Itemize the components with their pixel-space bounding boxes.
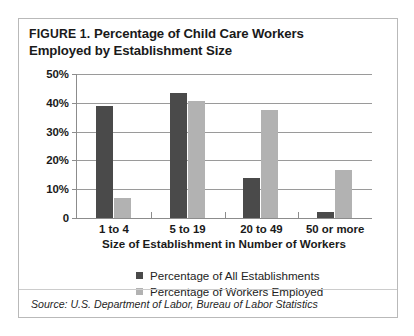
bar-workers-employed bbox=[188, 101, 205, 218]
y-axis-label: 0 bbox=[63, 212, 69, 224]
x-axis-category-label: 1 to 4 bbox=[99, 223, 129, 235]
bar-all-establishments bbox=[243, 178, 260, 218]
chart-legend: Percentage of All Establishments Percent… bbox=[136, 268, 323, 300]
source-note: Source: U.S. Department of Labor, Bureau… bbox=[31, 298, 318, 310]
legend-swatch-icon-dark bbox=[136, 272, 143, 279]
x-axis-category-label: 50 or more bbox=[306, 223, 364, 235]
bar-all-establishments bbox=[317, 212, 334, 218]
y-axis-tick bbox=[72, 74, 77, 75]
bar-chart: 010%20%30%40%50%1 to 45 to 1920 to 4950 … bbox=[29, 67, 389, 239]
legend-label-workers-employed: Percentage of Workers Employed bbox=[150, 285, 323, 298]
y-axis-tick bbox=[72, 132, 77, 133]
bar-workers-employed bbox=[114, 198, 131, 218]
gridline bbox=[77, 132, 372, 133]
figure-title: FIGURE 1. Percentage of Child Care Worke… bbox=[29, 26, 379, 58]
x-axis-category-label: 20 to 49 bbox=[240, 223, 282, 235]
x-axis-separator bbox=[225, 212, 226, 218]
gridline bbox=[77, 160, 372, 161]
bar-workers-employed bbox=[335, 170, 352, 218]
figure-title-line2: Employed by Establishment Size bbox=[29, 43, 232, 58]
y-axis-label: 50% bbox=[46, 68, 69, 80]
legend-label-all-establishments: Percentage of All Establishments bbox=[150, 269, 320, 282]
y-axis-tick bbox=[72, 189, 77, 190]
legend-item-all-establishments: Percentage of All Establishments bbox=[136, 268, 323, 282]
x-axis-title: Size of Establishment in Number of Worke… bbox=[76, 237, 372, 250]
bar-all-establishments bbox=[96, 106, 113, 218]
y-axis-label: 20% bbox=[46, 154, 69, 166]
figure-container: FIGURE 1. Percentage of Child Care Worke… bbox=[18, 18, 398, 318]
source-divider bbox=[19, 289, 397, 290]
y-axis-tick bbox=[72, 218, 77, 219]
bar-all-establishments bbox=[170, 93, 187, 218]
plot-area: 010%20%30%40%50%1 to 45 to 1920 to 4950 … bbox=[76, 74, 372, 219]
y-axis-tick bbox=[72, 160, 77, 161]
x-axis-category-label: 5 to 19 bbox=[170, 223, 206, 235]
gridline bbox=[77, 103, 372, 104]
x-axis-separator bbox=[151, 212, 152, 218]
x-axis-separator bbox=[298, 212, 299, 218]
y-axis-tick bbox=[72, 103, 77, 104]
gridline bbox=[77, 189, 372, 190]
y-axis-label: 30% bbox=[46, 126, 69, 138]
gridline bbox=[77, 74, 372, 75]
figure-number-label: FIGURE 1. bbox=[29, 27, 90, 41]
y-axis-label: 10% bbox=[46, 183, 69, 195]
figure-title-line1: Percentage of Child Care Workers bbox=[90, 26, 303, 41]
bar-workers-employed bbox=[261, 110, 278, 218]
legend-item-workers-employed: Percentage of Workers Employed bbox=[136, 284, 323, 298]
y-axis-label: 40% bbox=[46, 97, 69, 109]
